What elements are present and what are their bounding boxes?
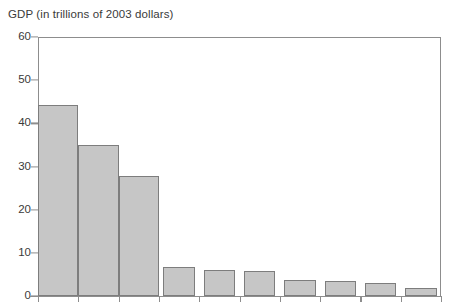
y-axis-tick-mark — [31, 123, 38, 124]
chart-axis-title: GDP (in trillions of 2003 dollars) — [8, 8, 174, 20]
y-axis-tick-label: 60 — [3, 31, 31, 43]
bar — [119, 176, 159, 296]
x-axis-tick-mark — [320, 296, 321, 302]
y-axis-tick-label: 20 — [3, 204, 31, 216]
bar — [204, 270, 235, 296]
x-axis-tick-mark — [38, 296, 39, 302]
bar — [405, 288, 436, 296]
y-axis-tick-mark — [31, 80, 38, 81]
bar — [78, 145, 118, 297]
x-axis-tick-mark — [159, 296, 160, 302]
y-axis-tick-label: 30 — [3, 161, 31, 173]
y-axis-tick-mark — [31, 166, 38, 167]
bar — [365, 283, 396, 296]
x-axis-tick-mark — [199, 296, 200, 302]
x-axis-tick-mark — [119, 296, 120, 302]
x-axis-tick-mark — [78, 296, 79, 302]
y-axis-tick-label: 50 — [3, 74, 31, 86]
y-axis-tick-mark — [31, 36, 38, 37]
bar — [325, 281, 356, 296]
bar-chart-figure: GDP (in trillions of 2003 dollars) 01020… — [0, 0, 456, 304]
x-axis-baseline — [30, 296, 442, 297]
x-axis-tick-mark — [401, 296, 402, 302]
y-axis-tick-label: 10 — [3, 247, 31, 259]
bar — [38, 105, 78, 296]
bars-layer — [38, 37, 441, 296]
x-axis-tick-mark — [280, 296, 281, 302]
x-axis-tick-mark — [360, 296, 361, 302]
y-axis-tick-mark — [31, 209, 38, 210]
y-axis-tick-mark — [31, 252, 38, 253]
y-axis-tick-label: 40 — [3, 118, 31, 130]
bar — [163, 267, 194, 296]
bar — [284, 280, 315, 296]
x-axis-tick-mark — [240, 296, 241, 302]
x-axis-tick-mark — [441, 296, 442, 302]
bar — [244, 271, 275, 296]
y-axis-tick-label: 0 — [3, 290, 31, 302]
